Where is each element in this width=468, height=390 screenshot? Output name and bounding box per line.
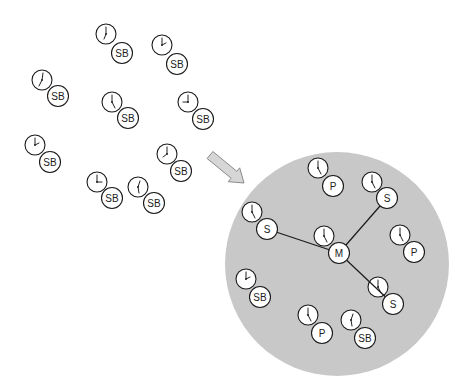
clock-icon [102, 92, 122, 112]
clock-icon [341, 310, 361, 330]
slave-node: S [257, 219, 278, 240]
clock-icon [25, 135, 45, 155]
clock-icon [390, 225, 410, 245]
master-node: M [329, 243, 350, 264]
standby-label: SB [43, 157, 57, 168]
passive-label: P [330, 181, 337, 192]
standby-node: SB [355, 328, 376, 349]
standby-node: SB [193, 109, 214, 130]
clock-icon [87, 172, 107, 192]
passive-node: P [323, 176, 344, 197]
clock-icon [314, 226, 334, 246]
clock-icon [368, 277, 388, 297]
passive-node: P [404, 242, 425, 263]
clock-icon [236, 269, 256, 289]
clock-icon [308, 158, 328, 178]
passive-label: P [319, 328, 326, 339]
standby-node: SB [102, 188, 123, 209]
clock-sync-diagram: SBSBSBSBSBSBSBSBSBPSSMPSSBPSB [0, 0, 468, 390]
clock-icon [242, 202, 262, 222]
standby-label: SB [253, 292, 267, 303]
standby-label: SB [51, 91, 65, 102]
clock-icon [96, 24, 116, 44]
clock-icon [32, 70, 52, 90]
transition-arrow-layer [207, 152, 244, 184]
slave-label: S [384, 193, 391, 204]
slave-label: S [264, 224, 271, 235]
standby-label: SB [196, 114, 210, 125]
standby-node: SB [112, 43, 133, 64]
standby-node: SB [144, 193, 165, 214]
clock-icon [362, 172, 382, 192]
standby-label: SB [115, 48, 129, 59]
standby-node: SB [48, 86, 69, 107]
standby-node: SB [171, 161, 192, 182]
passive-label: P [411, 247, 418, 258]
clock-icon [152, 35, 172, 55]
clock-icon [128, 177, 148, 197]
master-label: M [335, 248, 343, 259]
clock-icon [157, 144, 177, 164]
clock-icon [298, 305, 318, 325]
standby-label: SB [174, 166, 188, 177]
standby-node: SB [250, 287, 271, 308]
standby-label: SB [147, 198, 161, 209]
slave-label: S [390, 299, 397, 310]
standby-node: SB [118, 108, 139, 129]
standby-label: SB [105, 193, 119, 204]
standby-node: SB [167, 54, 188, 75]
passive-node: P [312, 323, 333, 344]
standby-label: SB [121, 113, 135, 124]
slave-node: S [383, 294, 404, 315]
standby-label: SB [358, 333, 372, 344]
slave-node: S [377, 188, 398, 209]
standby-label: SB [170, 59, 184, 70]
transition-arrow-icon [207, 152, 244, 184]
standby-node: SB [40, 152, 61, 173]
clock-icon [178, 92, 198, 112]
